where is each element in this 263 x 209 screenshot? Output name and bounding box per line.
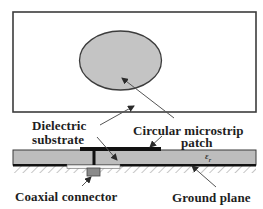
ground-hatching bbox=[13, 166, 256, 173]
label-ground-plane: Ground plane bbox=[172, 191, 251, 204]
side-view bbox=[13, 147, 256, 176]
permittivity-symbol: εr bbox=[205, 151, 211, 163]
label-patch: patch bbox=[181, 136, 213, 149]
circular-patch-top-view bbox=[80, 31, 162, 90]
ground-plane-left bbox=[13, 164, 67, 167]
microstrip-antenna-diagram bbox=[0, 0, 263, 209]
ground-plane bbox=[120, 164, 256, 167]
label-coaxial-connector: Coaxial connector bbox=[15, 190, 117, 203]
dielectric-substrate bbox=[13, 150, 256, 165]
top-view bbox=[13, 12, 256, 112]
label-dielectric: Dielectric bbox=[32, 119, 86, 132]
feed-pin bbox=[93, 150, 96, 165]
epsilon-subscript: r bbox=[209, 157, 211, 163]
circular-patch-side bbox=[80, 147, 161, 151]
arrow-coax bbox=[82, 177, 91, 186]
coaxial-connector bbox=[87, 168, 100, 176]
label-substrate: substrate bbox=[32, 133, 84, 146]
